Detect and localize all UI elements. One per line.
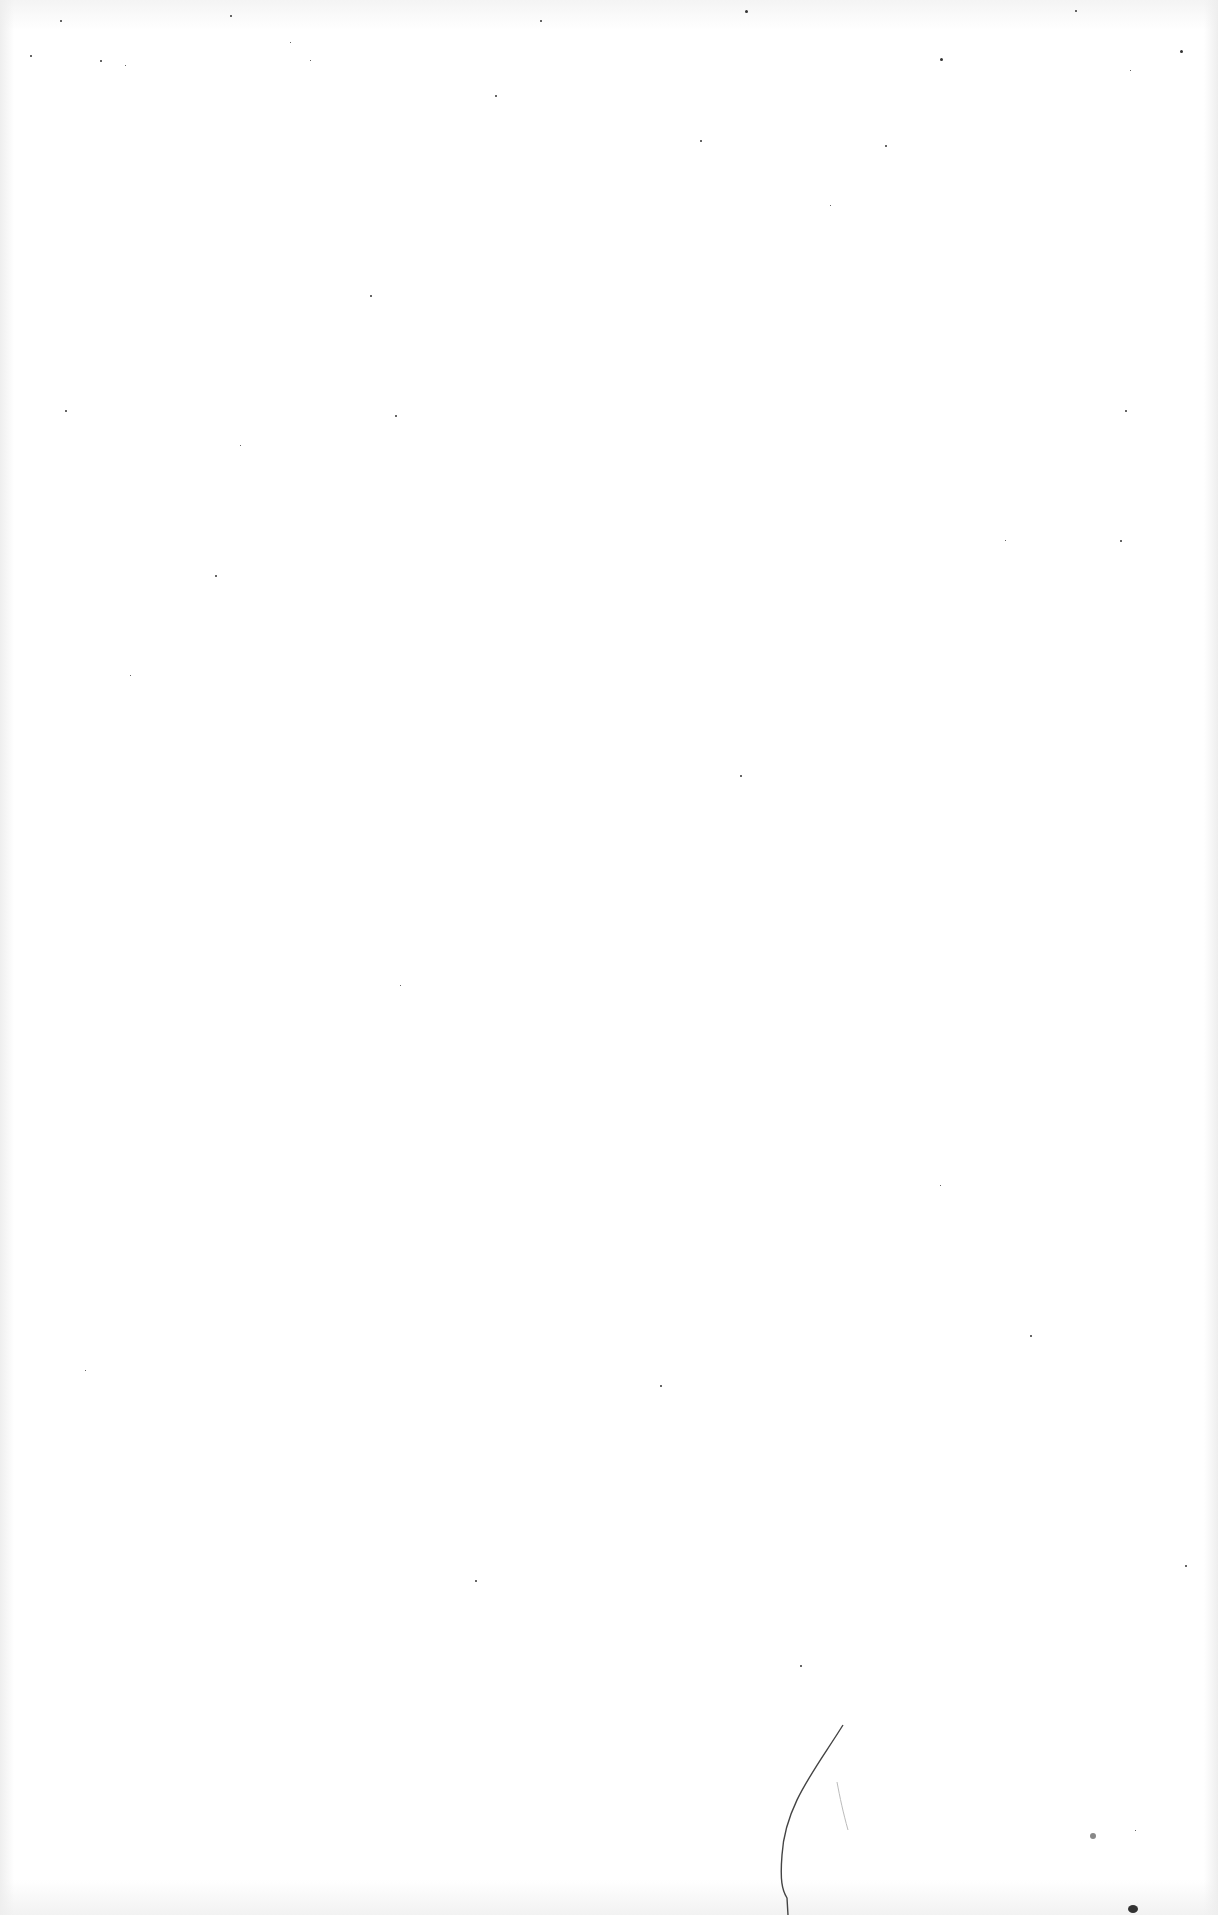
dust-speck (540, 20, 542, 22)
dark-blot (1128, 1905, 1138, 1913)
scanned-page (0, 0, 1218, 1915)
dust-speck (1135, 1830, 1136, 1831)
dust-speck (1005, 540, 1006, 541)
dust-speck (1125, 410, 1127, 412)
dust-speck (495, 95, 497, 97)
dust-speck (400, 985, 401, 986)
dust-speck (475, 1580, 477, 1582)
dust-speck (310, 60, 311, 61)
dust-speck (1120, 540, 1122, 542)
page-edge-shadow-right (1204, 0, 1218, 1915)
dust-speck (65, 410, 67, 412)
dust-speck (100, 60, 102, 62)
dust-speck (660, 1385, 662, 1387)
dust-speck (370, 295, 372, 297)
dust-speck (940, 58, 943, 61)
dust-speck (800, 1665, 802, 1667)
dust-speck (1185, 1565, 1187, 1567)
dust-speck (830, 205, 831, 206)
dust-speck (395, 415, 397, 417)
dust-speck (60, 20, 62, 22)
dust-speck (30, 55, 32, 57)
dust-speck (940, 1185, 941, 1186)
dust-speck (85, 1370, 86, 1371)
hair-stroke (770, 1720, 850, 1915)
dust-speck (1130, 70, 1131, 71)
dust-speck (740, 775, 742, 777)
dust-speck (1030, 1335, 1032, 1337)
grey-speck (1090, 1833, 1096, 1839)
dust-speck (745, 10, 748, 13)
dust-speck (130, 675, 131, 676)
dust-speck (240, 445, 241, 446)
dust-speck (290, 42, 291, 43)
dust-speck (885, 145, 887, 147)
dust-speck (1075, 10, 1077, 12)
page-edge-shadow-left (0, 0, 14, 1915)
dust-speck (230, 15, 232, 17)
dust-speck (215, 575, 217, 577)
dust-speck (700, 140, 702, 142)
dust-speck (1180, 50, 1183, 53)
dust-speck (125, 65, 126, 66)
